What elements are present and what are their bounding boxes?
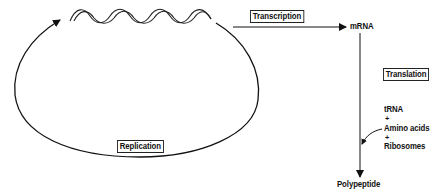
replication-label: Replication (117, 140, 164, 153)
trna-label: tRNA (384, 105, 403, 114)
mrna-label: mRNA (350, 22, 374, 31)
inputs-curved-arrow (362, 129, 382, 144)
dna-double-helix-icon (70, 9, 211, 23)
diagram-lines (0, 0, 443, 195)
translation-label: Translation (383, 68, 429, 81)
central-dogma-diagram: Transcription Translation Replication mR… (0, 0, 443, 195)
transcription-label: Transcription (250, 10, 304, 23)
replication-loop-arrow (15, 20, 259, 157)
plus-sign: + (385, 115, 389, 123)
amino-acids-label: Amino acids (384, 124, 429, 133)
ribosomes-label: Ribosomes (384, 142, 425, 151)
polypeptide-label: Polypeptide (337, 180, 380, 189)
